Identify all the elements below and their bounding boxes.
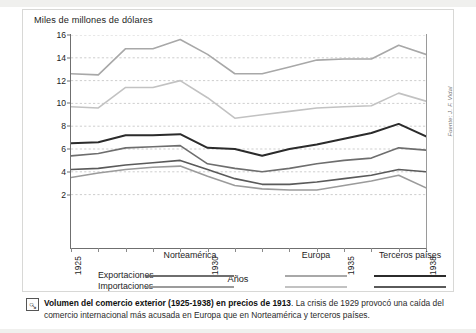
legend-grid: NorteaméricaEuropaTerceros paísesExporta… bbox=[22, 249, 454, 291]
figure-root: Miles de millones de dólares 24681012141… bbox=[0, 0, 476, 333]
source-note: Fuente: J. F. Vidal bbox=[447, 86, 453, 136]
legend-group-3: Terceros países bbox=[379, 250, 441, 260]
legend-swatch-terceros-importaciones bbox=[374, 286, 446, 288]
legend-swatch-europa-importaciones bbox=[285, 286, 347, 288]
right-axis-line bbox=[426, 34, 427, 249]
page-tint-top bbox=[0, 0, 476, 7]
plot-area bbox=[71, 35, 426, 206]
series-canvas bbox=[71, 35, 426, 206]
series-line bbox=[71, 81, 426, 119]
y-axis-title: Miles de millones de dólares bbox=[34, 15, 153, 25]
page-tint-bottom bbox=[0, 329, 476, 333]
figure-caption: ○ ↘ Volumen del comercio exterior (1925-… bbox=[22, 298, 462, 321]
magnifier-arrow: ↘ bbox=[31, 303, 37, 310]
series-line bbox=[71, 146, 426, 172]
magnifier-icon: ○ ↘ bbox=[26, 298, 39, 311]
legend-swatch-norteamerica-exportaciones bbox=[146, 275, 234, 277]
caption-title: Volumen del comercio exterior (1925-1938… bbox=[44, 298, 291, 308]
chart-legend: NorteaméricaEuropaTerceros paísesExporta… bbox=[22, 249, 454, 291]
legend-swatch-europa-exportaciones bbox=[285, 275, 347, 277]
legend-group-2: Europa bbox=[302, 250, 330, 260]
series-line bbox=[71, 124, 426, 156]
legend-row-2-label: Importaciones bbox=[98, 281, 153, 291]
legend-swatch-norteamerica-importaciones bbox=[146, 286, 234, 288]
series-line bbox=[71, 40, 426, 75]
legend-swatch-terceros-exportaciones bbox=[374, 275, 446, 277]
legend-group-1: Norteamérica bbox=[164, 250, 217, 260]
